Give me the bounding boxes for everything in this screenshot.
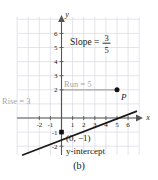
y-tick-label: 5	[54, 44, 58, 52]
x-tick-label: -2	[36, 121, 42, 129]
rise-label: Rise = 3	[2, 96, 30, 106]
x-tick-labels: -2 -1 1 2 3 4 5 6	[36, 121, 130, 129]
slope-fraction: 3 5	[103, 33, 111, 55]
graph-figure: -2 -1 1 2 3 4 5 6 6 5 4 3 2 -1 -2 x y Sl…	[0, 0, 158, 180]
figure-caption: (b)	[0, 160, 158, 171]
y-tick-label: 3	[54, 72, 58, 80]
intercept-text-label: y-intercept	[66, 146, 105, 156]
coordinate-plane: -2 -1 1 2 3 4 5 6 6 5 4 3 2 -1 -2 x y Sl…	[0, 0, 158, 180]
point-p-label: P	[120, 92, 127, 102]
y-tick-label: -1	[52, 129, 58, 137]
intercept-coordinate-label: (0, −1)	[66, 133, 91, 143]
slope-denominator: 5	[104, 45, 108, 55]
slope-annotation-text: Slope =	[70, 37, 99, 47]
x-tick-label: 3	[93, 121, 97, 129]
y-tick-label: 2	[54, 86, 58, 94]
y-intercept-marker	[59, 130, 64, 135]
x-tick-label: 6	[126, 121, 130, 129]
slope-numerator: 3	[104, 33, 108, 43]
x-tick-label: 5	[115, 121, 119, 129]
y-tick-label: 6	[54, 30, 58, 38]
y-tick-label: 4	[54, 58, 58, 66]
y-axis-label: y	[64, 10, 69, 19]
y-tick-label: -2	[52, 143, 58, 151]
x-axis-label: x	[145, 113, 150, 122]
point-p-marker	[115, 87, 120, 92]
y-tick-labels: 6 5 4 3 2 -1 -2	[52, 30, 58, 151]
x-tick-label: 4	[104, 121, 108, 129]
x-tick-label: 1	[71, 121, 75, 129]
x-tick-label: 2	[82, 121, 86, 129]
run-label: Run = 5	[64, 79, 91, 89]
